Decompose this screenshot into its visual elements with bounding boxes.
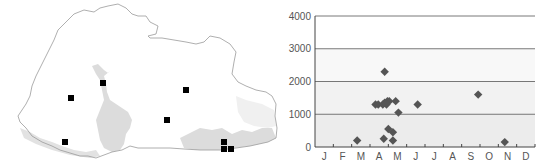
site-marker	[228, 146, 234, 152]
x-tick-label: M	[393, 151, 401, 162]
bhutan-map	[0, 0, 280, 166]
x-tick-label: A	[449, 151, 456, 162]
background-band	[315, 49, 535, 82]
y-tick-labels: 01000200030004000	[289, 11, 312, 153]
x-tick-label: A	[376, 151, 383, 162]
x-tick-labels: JFMAMJJASOND	[322, 151, 530, 162]
x-tick-label: O	[485, 151, 493, 162]
y-tick-label: 1000	[289, 109, 312, 120]
site-marker	[68, 95, 74, 101]
site-marker	[62, 139, 68, 145]
x-tick-label: S	[467, 151, 474, 162]
x-tick-label: N	[504, 151, 511, 162]
site-marker	[183, 87, 189, 93]
y-tick-label: 4000	[289, 11, 312, 22]
background-band	[315, 16, 535, 49]
site-marker	[221, 146, 227, 152]
x-tick-label: J	[413, 151, 418, 162]
y-tick-label: 0	[305, 142, 311, 153]
y-tick-label: 3000	[289, 43, 312, 54]
site-marker	[221, 139, 227, 145]
elevation-month-scatter: 01000200030004000 JFMAMJJASOND	[280, 0, 551, 166]
site-marker	[164, 117, 170, 123]
y-tick-label: 2000	[289, 76, 312, 87]
x-tick-label: M	[357, 151, 365, 162]
x-tick-label: J	[322, 151, 327, 162]
x-tick-label: D	[522, 151, 529, 162]
x-tick-label: F	[339, 151, 345, 162]
site-marker	[100, 80, 106, 86]
elevation-shading	[20, 64, 276, 158]
x-tick-label: J	[432, 151, 437, 162]
background-band	[315, 82, 535, 115]
